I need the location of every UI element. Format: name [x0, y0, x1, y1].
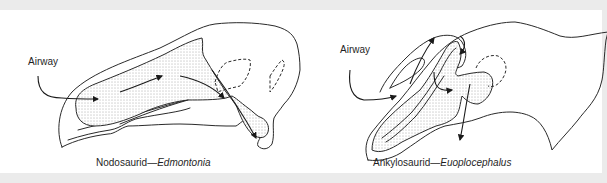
airway-label-nodosaurid: Airway [28, 56, 58, 67]
caption-ankylosaurid: Ankylosaurid—Euoplocephalus [373, 157, 511, 168]
airflow-arrow [350, 70, 396, 100]
caption-dash: — [147, 157, 157, 168]
caption-genus: Euoplocephalus [440, 157, 511, 168]
nodosaurid-skull [38, 23, 300, 149]
airway-label-ankylosaurid: Airway [340, 44, 370, 55]
caption-dash: — [430, 157, 440, 168]
airway-passage [372, 41, 493, 151]
caption-group: Nodosaurid [96, 157, 147, 168]
skull-diagrams [0, 0, 607, 183]
caption-genus: Edmontonia [157, 157, 210, 168]
caption-nodosaurid: Nodosaurid—Edmontonia [96, 157, 211, 168]
ankylosaurid-skull [350, 22, 607, 161]
airway-passage [76, 38, 269, 138]
caption-group: Ankylosaurid [373, 157, 430, 168]
